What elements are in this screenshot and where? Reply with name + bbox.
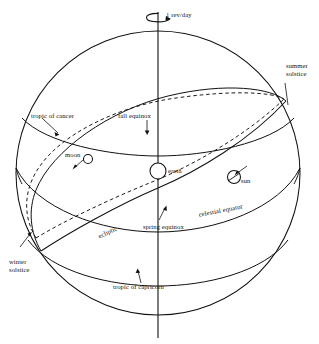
arrowhead-tropic-of-capricorn (136, 269, 141, 274)
winter-solstice-label: winter solstice (9, 258, 43, 273)
diagram-canvas (0, 0, 319, 344)
fall-equinox-label: fall equinox (118, 112, 151, 120)
moon-body (84, 155, 93, 164)
leader-tropic-of-cancer (42, 118, 58, 133)
rotation-rate-label: 1 rev/day (166, 11, 192, 19)
sun-label: sun (241, 177, 250, 185)
arrowhead-fall-equinox (145, 131, 150, 136)
moon-label: moon (65, 151, 80, 159)
earth-label: earth (168, 167, 182, 175)
tropic-of-cancer-label: tropic of cancer (31, 112, 74, 120)
earth-body (150, 163, 166, 179)
celestial-sphere-diagram: 1 rev/day summer solstice tropic of canc… (0, 0, 319, 344)
summer-solstice-label: summer solstice (286, 62, 319, 77)
spring-equinox-label: spring equinox (143, 223, 184, 231)
tropic-of-capricorn-label: tropic of capricorn (113, 283, 164, 291)
arrowhead-tropic-of-cancer (55, 132, 60, 137)
